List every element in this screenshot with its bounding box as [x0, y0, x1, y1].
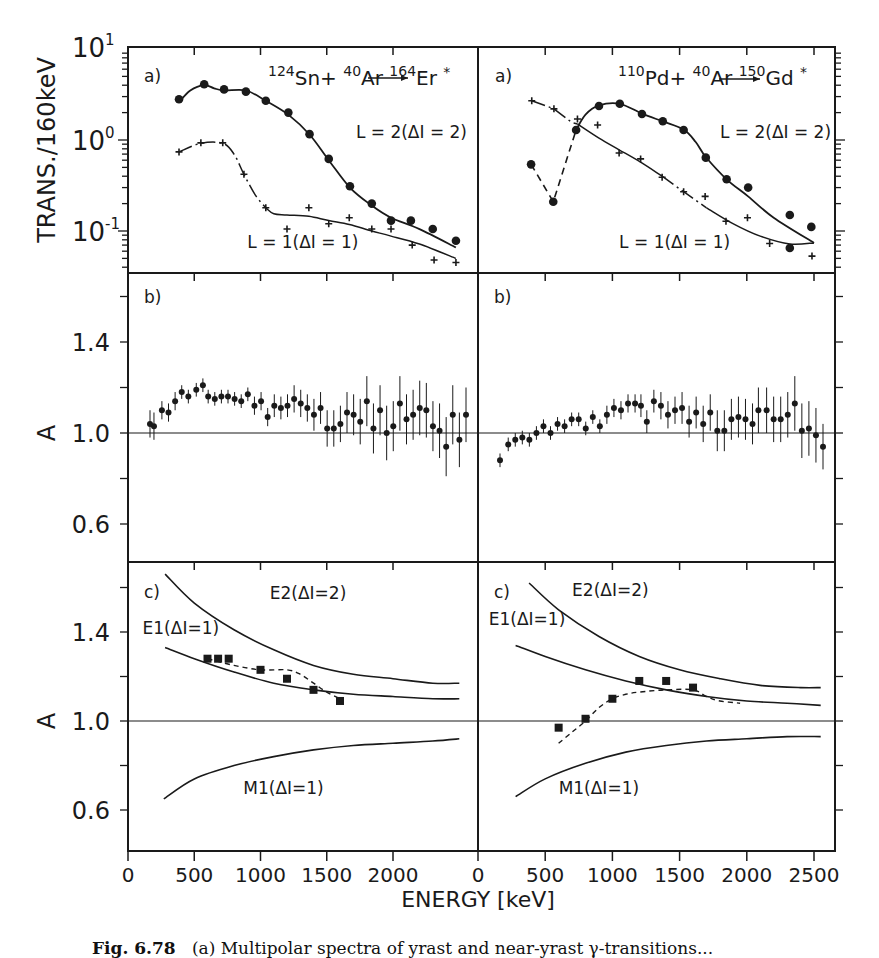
data-point: [735, 414, 741, 420]
x-tick-label: 500: [526, 863, 564, 887]
panel-label: b): [494, 287, 511, 307]
data-point-dot: [284, 108, 293, 117]
data-point-cross: [176, 148, 183, 155]
data-point: [410, 412, 416, 418]
data-point: [357, 419, 363, 425]
data-point-dot: [744, 183, 753, 192]
data-point: [771, 416, 777, 422]
data-point: [337, 421, 343, 427]
data-point-square: [689, 684, 697, 692]
data-point: [278, 405, 284, 411]
data-point: [437, 428, 443, 434]
data-point-cross: [528, 97, 535, 104]
data-point-dot: [659, 117, 668, 126]
data-point: [344, 410, 350, 416]
data-point: [377, 407, 383, 413]
data-point: [806, 425, 812, 431]
caption-text: (a) Multipolar spectra of yrast and near…: [192, 938, 713, 958]
outer-frame: [128, 47, 835, 851]
data-point: [298, 400, 304, 406]
data-point: [417, 405, 423, 411]
data-point: [644, 419, 650, 425]
data-point: [618, 407, 624, 413]
data-point: [245, 391, 251, 397]
data-point: [225, 394, 231, 400]
data-point: [364, 398, 370, 404]
caption-label: Fig. 6.78: [92, 938, 176, 958]
data-point-dot: [807, 223, 816, 232]
figure-caption: Fig. 6.78 (a) Multipolar spectra of yras…: [92, 938, 879, 958]
data-point: [813, 432, 819, 438]
data-point-cross: [388, 226, 395, 233]
curve-annotation: M1(ΔI=1): [243, 778, 323, 798]
x-axis-title: ENERGY [keV]: [401, 887, 555, 912]
y-tick-label: 1.4: [72, 619, 110, 647]
curve-annotation: E1(ΔI=1): [143, 618, 220, 638]
curve-annotation: E1(ΔI=1): [489, 609, 566, 629]
data-point: [318, 405, 324, 411]
fit-curve-L2-dashed: [531, 130, 576, 202]
data-point: [750, 421, 756, 427]
data-point: [384, 430, 390, 436]
data-point: [742, 416, 748, 422]
data-point-dot: [527, 160, 536, 169]
x-tick-label: 2500: [789, 863, 840, 887]
fit-curve-dashed: [208, 659, 341, 699]
x-tick-label: 2000: [368, 863, 419, 887]
data-point-square: [582, 715, 590, 723]
data-point: [540, 423, 546, 429]
data-point: [625, 400, 631, 406]
data-point: [151, 423, 157, 429]
data-point: [218, 394, 224, 400]
data-point: [258, 398, 264, 404]
x-tick-label: 0: [472, 863, 485, 887]
data-point-cross: [240, 171, 247, 178]
y-axis-title-trans: TRANS./160keV: [33, 57, 61, 244]
fit-curve-L1-dashdot-a: [532, 101, 578, 124]
y-axis-title-a: A: [33, 712, 61, 729]
curve-annotation: E2(ΔI=2): [572, 580, 649, 600]
data-point-square: [635, 677, 643, 685]
data-point-dot: [407, 216, 416, 225]
data-point-square: [336, 697, 344, 705]
data-point-square: [555, 724, 563, 732]
data-point-dot: [722, 175, 731, 184]
series-annotation: L = 1(ΔI = 1): [619, 232, 730, 252]
panel-left-a: L = 2(ΔI = 2)L = 1(ΔI = 1)a)124Sn+ 40Ar …: [144, 63, 467, 266]
series-annotation: L = 2(ΔI = 2): [720, 122, 831, 142]
data-point: [714, 428, 720, 434]
data-point: [159, 407, 165, 413]
data-point-dot: [242, 87, 251, 96]
data-point: [311, 412, 317, 418]
data-point-square: [225, 655, 233, 663]
reaction-title: 124Sn+ 40Ar 164Er *: [268, 63, 450, 90]
data-point: [562, 423, 568, 429]
data-point-dot: [786, 244, 795, 253]
data-point: [658, 403, 664, 409]
x-tick-label: 2000: [721, 863, 772, 887]
data-point: [179, 389, 185, 395]
data-point-dot: [368, 199, 377, 208]
data-point-dot: [452, 237, 461, 246]
data-point: [792, 400, 798, 406]
data-point: [665, 412, 671, 418]
data-point-square: [214, 655, 222, 663]
data-point-square: [283, 675, 291, 683]
data-point: [212, 396, 218, 402]
x-tick-label: 1000: [235, 863, 286, 887]
data-point: [576, 416, 582, 422]
data-point: [512, 437, 518, 443]
data-point: [463, 412, 469, 418]
data-point: [404, 416, 410, 422]
panel-right-a: L = 2(ΔI = 2)L = 1(ΔI = 1)a)110Pd+ 40Ar …: [495, 63, 831, 260]
data-point: [533, 430, 539, 436]
data-point: [569, 416, 575, 422]
data-point: [651, 398, 657, 404]
data-point-dot: [549, 197, 558, 206]
data-point-cross: [431, 257, 438, 264]
y-tick-label: 10-1: [72, 215, 120, 247]
data-point: [632, 400, 638, 406]
x-tick-label: 1500: [654, 863, 705, 887]
data-point-cross: [594, 122, 601, 129]
y-tick-label: 100: [72, 124, 115, 156]
